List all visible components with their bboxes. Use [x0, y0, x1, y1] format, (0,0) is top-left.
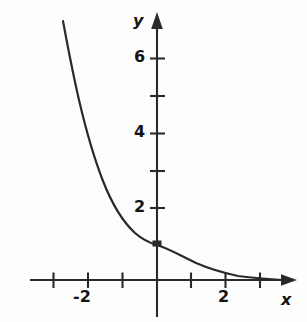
x-tick-label-2: 2: [218, 289, 229, 305]
x-axis-arrowhead: [281, 274, 297, 286]
x-tick-label-neg-2: -2: [73, 289, 91, 305]
plot-canvas: [0, 0, 307, 322]
exponential-curve: [63, 21, 282, 280]
y-axis-arrowhead: [151, 12, 163, 29]
y-axis-label: y: [133, 13, 143, 29]
y-tick-label-4: 4: [134, 124, 145, 140]
x-axis-label: x: [281, 292, 291, 308]
exponential-decay-figure: ) y x 6: [0, 0, 307, 322]
y-intercept-marker: [153, 241, 162, 247]
y-tick-label-6: 6: [134, 49, 145, 65]
y-tick-label-2: 2: [134, 199, 145, 215]
